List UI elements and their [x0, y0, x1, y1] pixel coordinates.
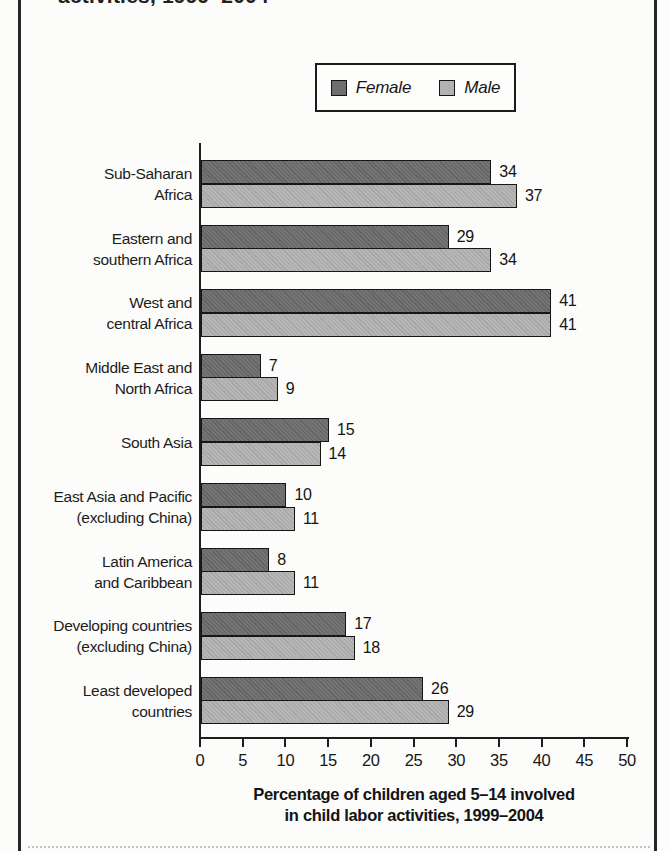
x-tick-label: 40	[527, 751, 557, 770]
x-tick-label: 25	[399, 751, 429, 770]
bar-female	[201, 612, 346, 636]
category-label: Eastern and southern Africa	[22, 228, 192, 270]
x-tick-label: 5	[228, 751, 258, 770]
y-axis-line	[199, 143, 201, 739]
x-tick	[455, 739, 457, 747]
bar-male	[201, 571, 295, 595]
x-tick	[284, 739, 286, 747]
x-tick-label: 0	[185, 751, 215, 770]
bottom-faint-rule	[28, 846, 650, 848]
x-tick-label: 10	[270, 751, 300, 770]
bar-value-label: 26	[431, 677, 448, 701]
bar-value-label: 11	[303, 571, 319, 595]
bar-value-label: 29	[457, 700, 474, 724]
bar-value-label: 17	[354, 612, 371, 636]
bar-female	[201, 289, 551, 313]
x-axis-title: Percentage of children aged 5–14 involve…	[200, 784, 628, 826]
bar-male	[201, 442, 321, 466]
x-axis-title-line2: in child labor activities, 1999–2004	[200, 805, 628, 826]
x-tick	[327, 739, 329, 747]
x-tick-label: 50	[612, 751, 642, 770]
x-tick-label: 20	[356, 751, 386, 770]
category-label: Sub-Saharan Africa	[22, 163, 192, 205]
bar-value-label: 9	[286, 377, 295, 401]
bar-male	[201, 377, 278, 401]
x-tick	[242, 739, 244, 747]
category-label: Latin America and Caribbean	[22, 551, 192, 593]
bar-value-label: 41	[559, 313, 576, 337]
bar-male	[201, 700, 449, 724]
category-label: Developing countries (excluding China)	[22, 615, 192, 657]
category-label: West and central Africa	[22, 292, 192, 334]
x-tick	[583, 739, 585, 747]
category-label: Least developed countries	[22, 680, 192, 722]
x-tick	[498, 739, 500, 747]
bar-male	[201, 507, 295, 531]
bar-value-label: 15	[337, 418, 354, 442]
bar-female	[201, 483, 286, 507]
bar-value-label: 11	[303, 507, 319, 531]
bar-value-label: 41	[559, 289, 576, 313]
bar-male	[201, 248, 491, 272]
bar-female	[201, 160, 491, 184]
bar-chart: Sub-Saharan Africa3437Eastern and southe…	[0, 0, 669, 851]
bar-value-label: 7	[269, 354, 278, 378]
bar-value-label: 34	[499, 160, 516, 184]
scanned-figure-page: activities, 1999–2004 Female Male Sub-Sa…	[0, 0, 669, 851]
category-label: East Asia and Pacific (excluding China)	[22, 486, 192, 528]
x-tick-label: 30	[441, 751, 471, 770]
bar-female	[201, 354, 261, 378]
bar-value-label: 37	[525, 184, 542, 208]
category-label: South Asia	[22, 432, 192, 453]
x-tick	[199, 739, 201, 747]
bar-male	[201, 184, 517, 208]
bar-value-label: 34	[499, 248, 516, 272]
bar-female	[201, 548, 269, 572]
x-tick-label: 15	[313, 751, 343, 770]
bar-value-label: 10	[294, 483, 311, 507]
x-tick	[413, 739, 415, 747]
x-tick	[626, 739, 628, 747]
x-tick-label: 35	[484, 751, 514, 770]
x-tick	[370, 739, 372, 747]
bar-male	[201, 636, 355, 660]
bar-value-label: 14	[329, 442, 346, 466]
x-axis-title-line1: Percentage of children aged 5–14 involve…	[200, 784, 628, 805]
bar-female	[201, 418, 329, 442]
bar-female	[201, 225, 449, 249]
bar-value-label: 8	[277, 548, 286, 572]
category-label: Middle East and North Africa	[22, 357, 192, 399]
bar-female	[201, 677, 423, 701]
bar-male	[201, 313, 551, 337]
x-tick-label: 45	[569, 751, 599, 770]
x-tick	[541, 739, 543, 747]
bar-value-label: 29	[457, 225, 474, 249]
bar-value-label: 18	[363, 636, 380, 660]
